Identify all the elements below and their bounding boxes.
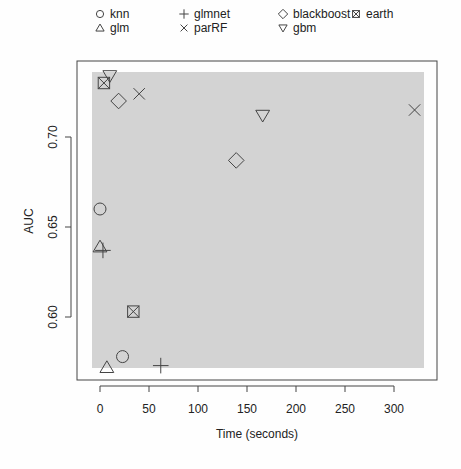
x-tick-label: 100 xyxy=(188,402,208,416)
legend-parRF-icon xyxy=(181,25,188,32)
x-tick-label: 50 xyxy=(142,402,156,416)
x-tick-label: 250 xyxy=(335,402,355,416)
legend-earth-icon xyxy=(353,11,360,18)
y-tick-label: 0.65 xyxy=(46,215,60,239)
scatter-chart: 050100150200250300Time (seconds)0.600.65… xyxy=(0,0,461,469)
x-tick-label: 200 xyxy=(286,402,306,416)
legend-label-glm: glm xyxy=(110,21,129,35)
legend-glm-icon xyxy=(96,24,104,31)
x-axis-label: Time (seconds) xyxy=(216,427,298,441)
y-tick-label: 0.70 xyxy=(46,125,60,149)
legend-label-blackboost: blackboost xyxy=(293,7,351,21)
x-tick-label: 300 xyxy=(384,402,404,416)
legend-label-gbm: gbm xyxy=(293,21,316,35)
x-tick-label: 150 xyxy=(237,402,257,416)
y-axis-label: AUC xyxy=(22,208,36,234)
legend-gbm-icon xyxy=(279,25,287,32)
legend-blackboost-icon xyxy=(278,9,287,18)
legend-label-glmnet: glmnet xyxy=(194,7,231,21)
legend-knn-icon xyxy=(96,10,103,17)
shaded-region xyxy=(92,72,424,368)
legend-glmnet-icon xyxy=(179,9,188,18)
legend-label-earth: earth xyxy=(366,7,393,21)
legend-label-parRF: parRF xyxy=(194,21,227,35)
y-tick-label: 0.60 xyxy=(46,305,60,329)
legend-label-knn: knn xyxy=(110,7,129,21)
x-tick-label: 0 xyxy=(97,402,104,416)
